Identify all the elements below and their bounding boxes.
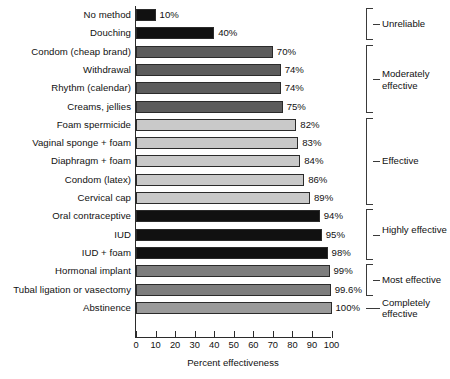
category-label: Rhythm (calendar) <box>0 79 131 97</box>
x-tick <box>332 331 333 338</box>
bar-value-label: 83% <box>302 134 321 152</box>
category-label: Cervical cap <box>0 189 131 207</box>
bar-row: Foam spermicide82% <box>0 116 450 134</box>
x-tick <box>136 331 137 338</box>
bar-track: 84% <box>136 152 336 170</box>
group-label: Moderately effective <box>382 68 450 91</box>
x-tick <box>292 331 293 338</box>
bar-track: 98% <box>136 244 336 262</box>
bar-track: 95% <box>136 226 336 244</box>
bar-row: Condom (latex)86% <box>0 171 450 189</box>
bar-row: IUD + foam98% <box>0 244 450 262</box>
group-bracket <box>366 45 373 114</box>
bar-value-label: 40% <box>218 24 237 42</box>
bar <box>136 302 332 314</box>
bar <box>136 101 283 113</box>
category-label: Withdrawal <box>0 61 131 79</box>
group-label: Most effective <box>382 274 450 286</box>
group-bracket <box>366 8 373 40</box>
group-bracket-stem <box>373 161 380 162</box>
x-tick <box>175 331 176 338</box>
category-label: No method <box>0 6 131 24</box>
group-bracket-stem <box>373 79 380 80</box>
group-connector-line <box>366 308 380 309</box>
bar-track: 82% <box>136 116 336 134</box>
category-label: Condom (latex) <box>0 171 131 189</box>
bar-track: 40% <box>136 24 336 42</box>
bar-value-label: 75% <box>287 98 306 116</box>
category-label: IUD + foam <box>0 244 131 262</box>
x-tick <box>214 331 215 338</box>
bar-track: 99% <box>136 262 336 280</box>
category-label: Tubal ligation or vasectomy <box>0 281 131 299</box>
group-bracket-stem <box>373 280 380 281</box>
bar <box>136 229 322 241</box>
bar-row: Creams, jellies75% <box>0 98 450 116</box>
bar-value-label: 84% <box>304 152 323 170</box>
category-label: Oral contraceptive <box>0 207 131 225</box>
bar-row: Condom (cheap brand)70% <box>0 43 450 61</box>
x-tick <box>273 331 274 338</box>
bar-row: Cervical cap89% <box>0 189 450 207</box>
category-label: Douching <box>0 24 131 42</box>
category-label: Foam spermicide <box>0 116 131 134</box>
bar-track: 100% <box>136 299 336 317</box>
x-tick <box>234 331 235 338</box>
group-label: Unreliable <box>382 18 450 30</box>
bar <box>136 265 330 277</box>
bar-track: 10% <box>136 6 336 24</box>
x-tick-label: 100 <box>319 340 345 350</box>
bar-track: 86% <box>136 171 336 189</box>
bar-value-label: 94% <box>324 207 343 225</box>
group-bracket <box>366 118 373 205</box>
bar-value-label: 100% <box>336 299 361 317</box>
bar <box>136 192 310 204</box>
group-bracket-stem <box>373 235 380 236</box>
group-label: Effective <box>382 155 450 167</box>
bar-track: 74% <box>136 79 336 97</box>
bar <box>136 9 156 21</box>
bar-value-label: 70% <box>277 43 296 61</box>
bar <box>136 119 296 131</box>
bar <box>136 27 214 39</box>
bar <box>136 82 281 94</box>
category-label: IUD <box>0 226 131 244</box>
group-bracket <box>366 209 373 260</box>
bar-track: 75% <box>136 98 336 116</box>
group-label: Completely effective <box>382 297 450 320</box>
bar-track: 89% <box>136 189 336 207</box>
bar-value-label: 95% <box>326 226 345 244</box>
x-tick <box>312 331 313 338</box>
category-label: Abstinence <box>0 299 131 317</box>
category-label: Diaphragm + foam <box>0 152 131 170</box>
bar <box>136 64 281 76</box>
bar-value-label: 10% <box>160 6 179 24</box>
bar <box>136 155 300 167</box>
bar <box>136 284 331 296</box>
effectiveness-bar-chart: No method10%Douching40%Condom (cheap bra… <box>0 0 450 379</box>
bar <box>136 137 298 149</box>
bar-track: 70% <box>136 43 336 61</box>
bar-value-label: 74% <box>285 61 304 79</box>
y-axis-line <box>135 6 136 337</box>
bar-track: 83% <box>136 134 336 152</box>
bar-track: 99.6% <box>136 281 336 299</box>
bar <box>136 247 328 259</box>
x-tick <box>156 331 157 338</box>
bar-value-label: 74% <box>285 79 304 97</box>
bar <box>136 174 304 186</box>
category-label: Creams, jellies <box>0 98 131 116</box>
bar-track: 94% <box>136 207 336 225</box>
group-bracket-stem <box>373 24 380 25</box>
bar-value-label: 99% <box>334 262 353 280</box>
bar-row: Oral contraceptive94% <box>0 207 450 225</box>
bar-track: 74% <box>136 61 336 79</box>
bar-value-label: 98% <box>332 244 351 262</box>
x-tick <box>253 331 254 338</box>
bar <box>136 210 320 222</box>
bar-value-label: 89% <box>314 189 333 207</box>
category-label: Condom (cheap brand) <box>0 43 131 61</box>
bar-value-label: 99.6% <box>335 281 362 299</box>
category-label: Hormonal implant <box>0 262 131 280</box>
x-tick <box>195 331 196 338</box>
